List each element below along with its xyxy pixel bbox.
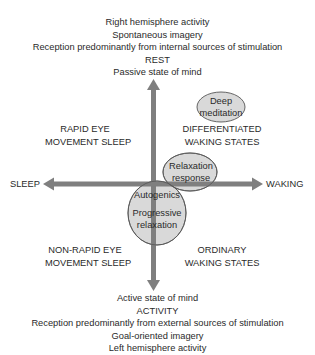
quadrant-label-line: WAKING STATES (180, 257, 264, 270)
up-arrowhead-icon (147, 79, 160, 90)
quadrant-label-line: MOVEMENT SLEEP (45, 136, 125, 149)
quadrant-label-line: MOVEMENT SLEEP (45, 257, 125, 270)
ellipse-label-line: Autogenics (128, 189, 186, 201)
top-label: Right hemisphere activity (0, 16, 315, 29)
horizontal-axis-shaft (52, 182, 254, 187)
bottom-label: Reception predominantly from external so… (0, 317, 315, 330)
bottom-label: Left hemisphere activity (0, 342, 315, 355)
quadrant-label-line: ORDINARY (180, 244, 264, 257)
waking-axis-label: WAKING (266, 178, 303, 190)
ellipse-label-line: Deep (197, 95, 245, 107)
deep-meditation-label: Deep meditation (197, 95, 245, 119)
down-arrowhead-icon (147, 280, 160, 291)
quadrant-rem-sleep: RAPID EYE MOVEMENT SLEEP (45, 123, 125, 148)
top-labels: Right hemisphere activity Spontaneous im… (0, 16, 315, 79)
top-label: Reception predominantly from internal so… (0, 41, 315, 54)
quadrant-label-line: DIFFERENTIATED (180, 123, 264, 136)
top-label: Passive state of mind (0, 66, 315, 79)
top-label: REST (0, 54, 315, 67)
bottom-label: ACTIVITY (0, 305, 315, 318)
left-arrowhead-icon (43, 178, 54, 191)
quadrant-non-rem-sleep: NON-RAPID EYE MOVEMENT SLEEP (45, 244, 125, 269)
ellipse-label-line: Relaxation (164, 160, 218, 172)
quadrant-label-line: WAKING STATES (180, 136, 264, 149)
bottom-label: Goal-oriented imagery (0, 330, 315, 343)
bottom-label: Active state of mind (0, 292, 315, 305)
quadrant-ordinary-waking: ORDINARY WAKING STATES (180, 244, 264, 269)
relaxation-response-label: Relaxation response (164, 160, 218, 184)
sleep-axis-label: SLEEP (10, 178, 40, 190)
ellipse-label-line: meditation (197, 107, 245, 119)
autogenics-label: Autogenics Progressive relaxation (128, 189, 186, 231)
bottom-labels: Active state of mind ACTIVITY Reception … (0, 292, 315, 355)
right-arrowhead-icon (252, 178, 263, 191)
quadrant-label-line: RAPID EYE (45, 123, 125, 136)
quadrant-label-line: NON-RAPID EYE (45, 244, 125, 257)
quadrant-differentiated-waking: DIFFERENTIATED WAKING STATES (180, 123, 264, 148)
top-label: Spontaneous imagery (0, 29, 315, 42)
ellipse-label-line: relaxation (128, 219, 186, 231)
ellipse-label-line: response (164, 172, 218, 184)
ellipse-label-line: Progressive (128, 207, 186, 219)
